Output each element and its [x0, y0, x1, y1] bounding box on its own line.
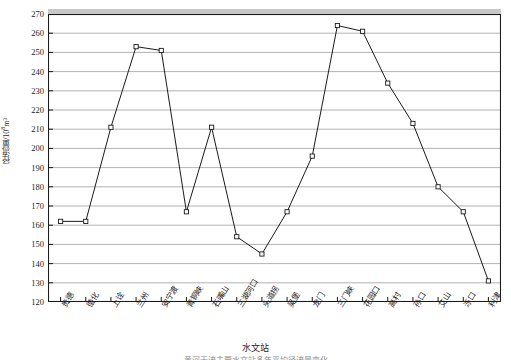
y-axis-tick-label: 150	[31, 239, 44, 249]
y-axis-tick-label: 210	[31, 124, 44, 134]
data-point-marker	[411, 121, 415, 125]
data-point-marker	[159, 48, 163, 52]
y-axis-tick-label: 200	[31, 143, 44, 153]
plot-svg	[48, 14, 501, 302]
y-axis-title-unit: m³	[2, 118, 11, 127]
data-point-marker	[461, 210, 465, 214]
plot-frame	[49, 15, 501, 302]
data-point-marker	[209, 125, 213, 129]
x-axis-title: 水文站	[0, 341, 511, 354]
data-point-marker	[436, 185, 440, 189]
y-axis-tick-label: 180	[31, 182, 44, 192]
y-axis-tick-label: 220	[31, 105, 44, 115]
data-point-marker	[235, 235, 239, 239]
data-point-marker	[486, 279, 490, 283]
plot-area	[48, 14, 501, 302]
y-axis-title: 径流量/108m³	[1, 118, 15, 164]
y-axis-tick-labels: 1201301401501601701801902002102202302402…	[14, 14, 46, 302]
y-axis-tick-label: 130	[31, 278, 44, 288]
y-axis-tick-label: 250	[31, 47, 44, 57]
y-axis-tick-label: 170	[31, 201, 44, 211]
y-axis-tick-label: 160	[31, 220, 44, 230]
data-point-marker	[386, 81, 390, 85]
data-series-line	[61, 26, 489, 281]
data-point-marker	[260, 252, 264, 256]
y-axis-tick-label: 140	[31, 259, 44, 269]
data-point-marker	[360, 29, 364, 33]
data-point-marker	[310, 154, 314, 158]
data-point-marker	[84, 219, 88, 223]
y-axis-tick-label: 240	[31, 67, 44, 77]
y-axis-tick-label: 260	[31, 28, 44, 38]
y-axis-tick-label: 270	[31, 9, 44, 19]
y-axis-title-text: 径流量/10	[2, 130, 11, 164]
data-point-marker	[109, 125, 113, 129]
runoff-line-chart: 径流量/108m³ 120130140150160170180190200210…	[0, 0, 511, 360]
y-axis-tick-label: 190	[31, 163, 44, 173]
y-axis-title-exponent: 8	[0, 127, 6, 130]
data-point-marker	[285, 210, 289, 214]
data-point-marker	[58, 219, 62, 223]
data-point-marker	[335, 23, 339, 27]
data-point-marker	[184, 210, 188, 214]
figure-caption: 黄河干流主要水文站多年平均径流量变化	[0, 356, 511, 360]
y-axis-tick-label: 230	[31, 86, 44, 96]
data-point-marker	[134, 45, 138, 49]
